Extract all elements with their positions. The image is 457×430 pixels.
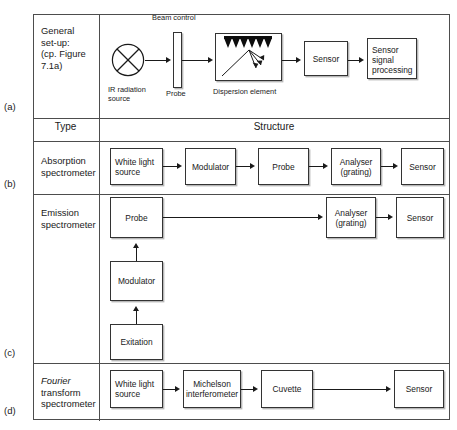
rule-after-row-a — [34, 118, 449, 119]
arrowhead-c-probe-to-analyser — [318, 214, 323, 220]
modulator-box-b: Modulator — [185, 148, 236, 185]
dispersion-element-box — [215, 33, 282, 81]
column-divider-row-c — [99, 194, 100, 363]
white-light-source-box-d: White light source — [110, 370, 163, 408]
type-line: transform — [41, 387, 99, 399]
box-line: White light — [115, 379, 160, 389]
arrowhead-c-exitation-to-modulator — [133, 306, 139, 311]
caption-probe: Probe — [166, 90, 186, 99]
white-light-source-box-b: White light source — [110, 148, 163, 185]
arrowhead-d-2 — [253, 386, 258, 392]
sensor-box-a: Sensor — [304, 41, 348, 76]
connector-c-exitation-to-modulator — [136, 311, 137, 325]
header-structure: Structure — [98, 121, 450, 132]
box-line: signal — [372, 55, 414, 65]
sensor-box-d: Sensor — [394, 370, 444, 408]
caption-ir-radiation-source: IR radiation source — [108, 86, 156, 103]
arrowhead-c-modulator-to-probe — [133, 243, 139, 248]
spectrometer-setup-figure: (a) (b) (c) (d) General set-up: (cp. Fig… — [0, 0, 457, 430]
column-divider-row-a — [99, 15, 100, 118]
type-line: spectrometer — [41, 219, 99, 231]
arrowhead-dispersion-to-sensor — [296, 57, 301, 63]
type-line: spectrometer — [41, 167, 99, 179]
box-line: Michelson — [186, 379, 238, 389]
header-type: Type — [33, 121, 98, 132]
box-line: processing — [372, 65, 414, 75]
exitation-box-c: Exitation — [110, 324, 163, 360]
probe-box-b: Probe — [258, 148, 309, 185]
arrowhead-b-4 — [393, 163, 398, 169]
arrowhead-sensor-to-processing — [359, 57, 364, 63]
box-line: (grating) — [329, 218, 373, 228]
rule-after-row-b — [34, 194, 449, 195]
row-letter-c: (c) — [4, 347, 30, 358]
connector-c-probe-to-analyser — [163, 217, 321, 218]
type-line: set-up: — [41, 37, 99, 49]
caption-beam-control: Beam control — [152, 14, 196, 23]
arrowhead-probe-to-dispersion — [208, 57, 213, 63]
caption-dispersion-element: Dispersion element — [213, 88, 276, 97]
rule-after-header — [34, 141, 449, 142]
row-letter-d: (d) — [4, 405, 30, 416]
box-line: Sensor — [372, 45, 414, 55]
type-line: (cp. Figure — [41, 48, 99, 60]
connector-d-3 — [313, 389, 389, 390]
caption-line: source — [108, 95, 156, 104]
probe-box-c: Probe — [110, 197, 163, 238]
arrowhead-c-analyser-to-sensor — [388, 214, 393, 220]
box-line: source — [115, 167, 160, 177]
rule-after-row-c — [34, 363, 449, 364]
box-line: Analyser — [334, 157, 378, 167]
analyser-grating-box-c: Analyser (grating) — [326, 197, 376, 238]
column-divider-row-d — [99, 363, 100, 421]
sensor-signal-processing-box: Sensor signal processing — [367, 38, 417, 79]
box-line: White light — [115, 157, 160, 167]
probe-slab — [173, 32, 182, 88]
arrowhead-d-3 — [386, 386, 391, 392]
type-line: General — [41, 25, 99, 37]
row-letter-b: (b) — [4, 178, 30, 189]
arrowhead-d-1 — [175, 386, 180, 392]
modulator-box-c: Modulator — [110, 261, 163, 301]
box-line: (grating) — [334, 167, 378, 177]
type-line: Emission — [41, 207, 99, 219]
box-line: Analyser — [329, 208, 373, 218]
arrowhead-source-to-probe — [166, 57, 171, 63]
arrowhead-b-1 — [177, 163, 182, 169]
arrowhead-b-3 — [323, 163, 328, 169]
type-line: 7.1a) — [41, 60, 99, 72]
type-cell-general-setup: General set-up: (cp. Figure 7.1a) — [41, 25, 99, 71]
connector-probe-to-dispersion — [182, 60, 211, 61]
grating-graphic — [216, 34, 281, 80]
analyser-grating-box-b: Analyser (grating) — [331, 148, 381, 185]
michelson-interferometer-box: Michelson interferometer — [183, 370, 241, 408]
cuvette-box: Cuvette — [261, 370, 313, 408]
ir-radiation-source-icon — [111, 43, 145, 77]
type-cell-emission-spectrometer: Emission spectrometer — [41, 207, 99, 230]
sensor-box-c: Sensor — [396, 197, 444, 238]
row-letter-a: (a) — [4, 101, 30, 112]
type-cell-absorption-spectrometer: Absorption spectrometer — [41, 155, 99, 178]
box-line: interferometer — [186, 389, 238, 399]
connector-c-modulator-to-probe — [136, 248, 137, 262]
box-line: source — [115, 389, 160, 399]
arrowhead-b-2 — [250, 163, 255, 169]
type-line: spectrometer — [41, 398, 99, 410]
type-line-italic: Fourier — [41, 375, 99, 387]
type-line: Absorption — [41, 155, 99, 167]
column-divider-row-b — [99, 141, 100, 194]
type-cell-fourier-transform-spectrometer: Fourier transform spectrometer — [41, 375, 99, 410]
sensor-box-b: Sensor — [401, 148, 444, 185]
